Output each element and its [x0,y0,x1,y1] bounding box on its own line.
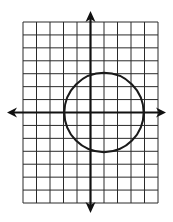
axes [7,11,166,213]
coordinate-plane [0,0,173,222]
